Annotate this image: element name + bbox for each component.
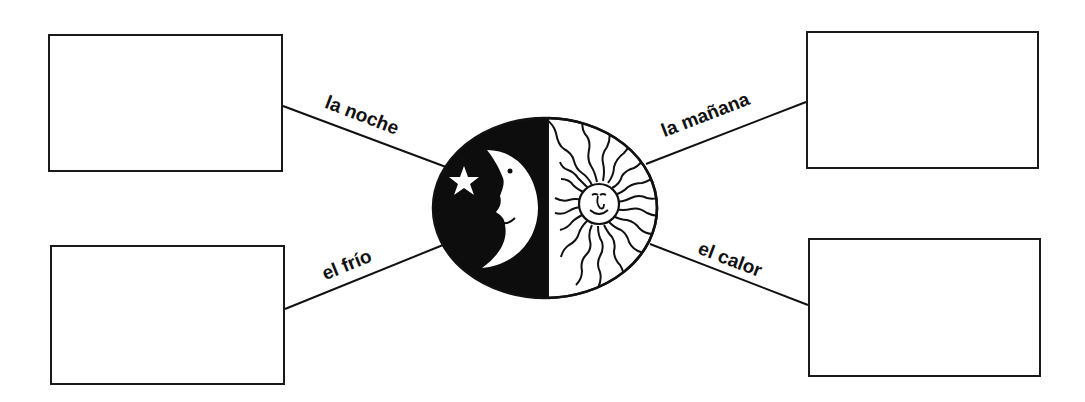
diagram-art: [0, 0, 1085, 402]
sun-icon: [579, 184, 619, 224]
moon-and-sun-icon: [433, 113, 663, 298]
